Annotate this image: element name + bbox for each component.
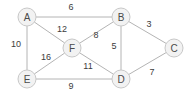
edge-weight-b-d: 5: [111, 41, 116, 51]
edge-weight-a-e: 10: [11, 39, 21, 49]
node-label-d: D: [117, 74, 124, 85]
node-label-b: B: [118, 12, 125, 23]
edge-weight-b-c: 3: [146, 19, 151, 29]
edge-weight-e-f: 16: [41, 52, 51, 62]
node-label-e: E: [24, 74, 31, 85]
edge-weight-a-b: 6: [68, 2, 73, 12]
node-label-a: A: [24, 12, 31, 23]
graph-diagram: ABCDEF 61210385711916: [0, 0, 194, 95]
node-label-c: C: [170, 43, 177, 54]
edge-weight-d-f: 11: [83, 61, 92, 71]
edge-weight-a-f: 12: [57, 24, 67, 34]
edge-weight-d-e: 9: [68, 81, 73, 91]
edge-weight-c-d: 7: [149, 67, 154, 77]
graph-svg-surface: ABCDEF 61210385711916: [0, 0, 194, 95]
edge-c-d: [129, 53, 166, 75]
edge-weight-b-f: 8: [93, 30, 98, 40]
nodes-layer: ABCDEF: [18, 8, 183, 88]
node-label-f: F: [69, 43, 75, 54]
edges-layer: [27, 17, 166, 79]
